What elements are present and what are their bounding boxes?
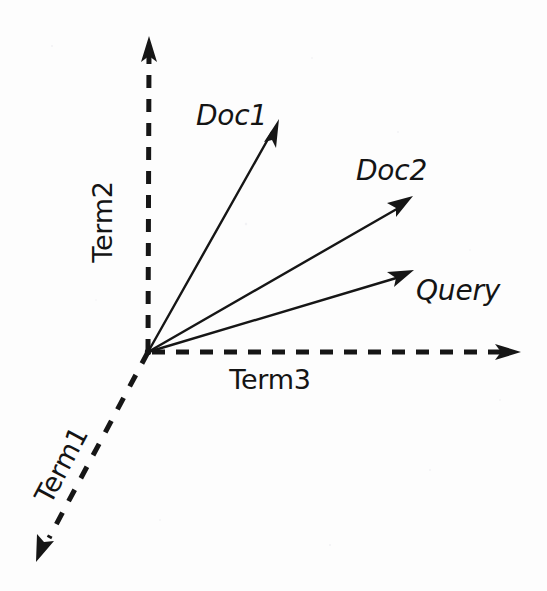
vector-doc2: Doc2	[148, 154, 427, 352]
vector-doc2-arrowhead-icon	[387, 196, 413, 217]
origin-point	[145, 349, 151, 355]
vector-doc2-line	[148, 206, 402, 352]
axis-term2-line	[148, 52, 149, 352]
vector-query-label: Query	[416, 274, 501, 307]
diagram-canvas: Term2 Term3 Term1 Doc1	[0, 0, 547, 591]
axis-term1: Term1	[28, 352, 148, 562]
vector-space-diagram: Term2 Term3 Term1 Doc1	[0, 0, 547, 591]
vectors-group: Doc1 Doc2 Query	[148, 99, 501, 352]
vector-query: Query	[148, 270, 501, 352]
axis-term3: Term3	[152, 344, 521, 395]
axis-term1-label: Term1	[28, 422, 94, 510]
vector-query-line	[148, 276, 403, 352]
axis-term2: Term2	[87, 36, 158, 352]
vector-doc1-label: Doc1	[196, 99, 267, 132]
vector-doc2-label: Doc2	[356, 154, 427, 187]
vector-doc1-line	[148, 132, 272, 352]
axis-term3-label: Term3	[228, 364, 311, 395]
axis-term2-label: Term2	[87, 181, 118, 264]
